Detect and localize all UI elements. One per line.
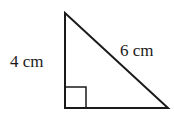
hypotenuse-label: 6 cm — [120, 41, 154, 60]
triangle-diagram: 4 cm 6 cm — [0, 0, 174, 120]
right-triangle — [65, 13, 168, 108]
vertical-leg-label: 4 cm — [10, 52, 44, 71]
right-angle-marker — [65, 87, 86, 108]
